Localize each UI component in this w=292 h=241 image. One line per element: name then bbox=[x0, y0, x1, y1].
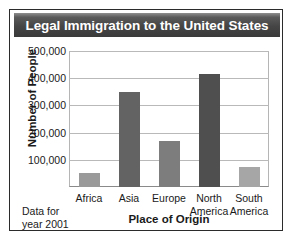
bar bbox=[239, 167, 260, 187]
chart-title-bar: Legal Immigration to the United States bbox=[14, 13, 280, 37]
chart-panel: Legal Immigration to the United States N… bbox=[9, 9, 283, 231]
gridline bbox=[69, 78, 269, 79]
bar bbox=[159, 141, 180, 187]
bar bbox=[119, 92, 140, 187]
y-tick-label: 400,000 bbox=[0, 72, 66, 84]
x-tick-label: Europe bbox=[149, 192, 189, 205]
gridline bbox=[69, 105, 269, 106]
x-axis-title: Place of Origin bbox=[69, 213, 269, 225]
gridline bbox=[69, 133, 269, 134]
chart-region: Number of People 100,000200,000300,00040… bbox=[10, 37, 281, 229]
y-tick-label: 500,000 bbox=[0, 45, 66, 57]
bar bbox=[79, 173, 100, 187]
chart-title: Legal Immigration to the United States bbox=[26, 18, 269, 33]
y-tick-label: 200,000 bbox=[0, 127, 66, 139]
y-tick-label: 100,000 bbox=[0, 154, 66, 166]
x-tick-label: Africa bbox=[69, 192, 109, 205]
x-tick-label: Asia bbox=[109, 192, 149, 205]
data-note: Data for year 2001 bbox=[22, 205, 69, 231]
y-tick-label: 300,000 bbox=[0, 99, 66, 111]
bar bbox=[199, 74, 220, 187]
gridline bbox=[69, 51, 269, 52]
